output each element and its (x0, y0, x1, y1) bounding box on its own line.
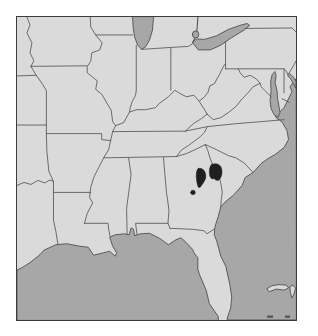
locality-dot (191, 190, 196, 195)
islet-dash-east (285, 316, 290, 318)
islet-dash-west (267, 316, 273, 318)
range-blob-east (209, 164, 222, 181)
lake-st-clair (192, 31, 198, 38)
map-frame (16, 16, 297, 321)
kansas-nebraska-line (17, 75, 36, 76)
map-svg (17, 17, 296, 320)
range-map-figure (0, 0, 318, 336)
